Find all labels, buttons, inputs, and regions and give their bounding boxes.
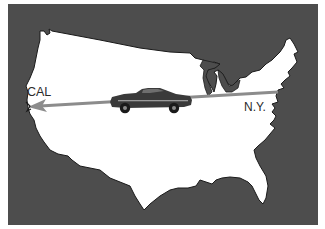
origin-label: N.Y. [244, 101, 266, 113]
usa-map-icon [26, 29, 298, 210]
destination-label: CAL [27, 86, 51, 99]
map-scene [0, 0, 325, 229]
figure-frame: CAL N.Y. [0, 0, 325, 229]
